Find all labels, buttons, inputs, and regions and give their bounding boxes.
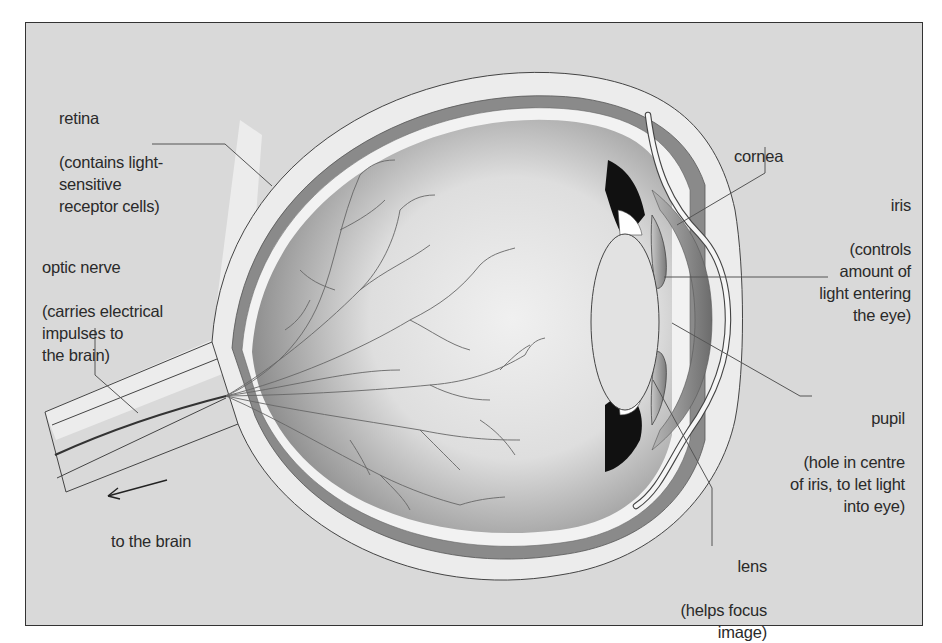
pupil-title: pupil — [871, 409, 905, 427]
to-brain-text: to the brain — [111, 532, 191, 550]
lens-description: (helps focus image) — [680, 601, 767, 641]
label-lens: lens (helps focus image) — [680, 533, 767, 643]
retina-description: (contains light- sensitive receptor cell… — [59, 153, 163, 215]
label-pupil: pupil (hole in centre of iris, to let li… — [790, 385, 905, 517]
retina-title: retina — [59, 109, 99, 127]
optic-nerve-title: optic nerve — [42, 258, 121, 276]
label-retina: retina (contains light- sensitive recept… — [59, 85, 163, 217]
pupil-description: (hole in centre of iris, to let light in… — [790, 453, 905, 515]
label-optic-nerve: optic nerve (carries electrical impulses… — [42, 234, 163, 366]
arrow-left-icon — [108, 480, 167, 499]
optic-nerve-description: (carries electrical impulses to the brai… — [42, 302, 163, 364]
cornea-title: cornea — [734, 147, 783, 165]
label-cornea: cornea — [734, 123, 783, 167]
label-iris: iris (controls amount of light entering … — [819, 172, 911, 326]
iris-title: iris — [891, 196, 911, 214]
iris-description: (controls amount of light entering the e… — [819, 240, 911, 324]
label-to-the-brain: to the brain — [111, 508, 191, 552]
lens-title: lens — [738, 557, 767, 575]
lens-body — [591, 234, 659, 410]
